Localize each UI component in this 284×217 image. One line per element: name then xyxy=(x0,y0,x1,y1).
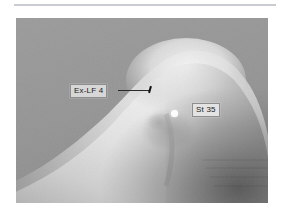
annotation-label-st-35: St 35 xyxy=(192,103,220,117)
top-divider-rule xyxy=(14,4,276,6)
st-35-point-marker xyxy=(171,110,178,117)
photograph-image xyxy=(16,18,268,203)
ex-lf-4-leader-line xyxy=(118,90,150,91)
annotation-label-ex-lf-4: Ex-LF 4 xyxy=(70,84,107,98)
clinical-photograph: Ex-LF 4 St 35 xyxy=(16,18,268,203)
